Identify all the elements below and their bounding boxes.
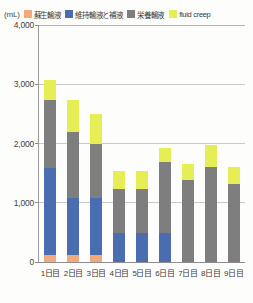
y-axis-unit-label: (mL) xyxy=(4,10,20,19)
stacked-bar[interactable] xyxy=(228,167,240,262)
bar-segment xyxy=(90,144,102,199)
bar-segment xyxy=(90,198,102,255)
y-axis-tick-label: 3,000 xyxy=(14,79,34,89)
x-axis-tick-label: 9日目 xyxy=(224,267,243,278)
legend-item-3: fluid creep xyxy=(169,10,210,19)
legend-item-0: 蘇生輸液 xyxy=(24,9,61,20)
bar-group-2[interactable]: 2日目 xyxy=(62,25,85,262)
bar-group-5[interactable]: 5日目 xyxy=(131,25,154,262)
bar-segment xyxy=(136,171,148,189)
x-axis-tick-label: 5日目 xyxy=(132,267,151,278)
bar-segment xyxy=(67,132,79,198)
x-axis-tick-label: 8日目 xyxy=(201,267,220,278)
bar-segment xyxy=(182,180,194,262)
bar-segment xyxy=(44,100,56,168)
bar-segment xyxy=(67,100,79,131)
stacked-bar-chart: (mL) 蘇生輸液 維持輸液と補液 栄養輸液 fluid creep 01,00… xyxy=(0,0,253,303)
bar-segment xyxy=(228,184,240,262)
bar-segment xyxy=(159,162,171,233)
stacked-bar[interactable] xyxy=(205,145,217,262)
stacked-bar[interactable] xyxy=(136,171,148,262)
x-axis-tick-label: 4日目 xyxy=(109,267,128,278)
bar-group-8[interactable]: 8日目 xyxy=(199,25,222,262)
stacked-bar[interactable] xyxy=(113,171,125,262)
bar-segment xyxy=(136,233,148,262)
legend-swatch-icon-1 xyxy=(65,10,73,18)
bar-group-9[interactable]: 9日目 xyxy=(222,25,245,262)
bar-segment xyxy=(205,167,217,262)
bar-segment xyxy=(67,198,79,255)
x-axis-tick-label: 2日目 xyxy=(64,267,83,278)
y-axis-tick-label: 0 xyxy=(29,257,34,267)
bar-segment xyxy=(44,80,56,101)
x-axis-tick-label: 7日目 xyxy=(178,267,197,278)
bar-segment xyxy=(113,189,125,233)
stacked-bar[interactable] xyxy=(90,114,102,262)
bar-segment xyxy=(90,114,102,143)
bar-group-3[interactable]: 3日目 xyxy=(85,25,108,262)
plot-area: 01,0002,0003,0004,000 1日目2日目3日目4日目5日目6日目… xyxy=(38,25,245,262)
chart-legend: (mL) 蘇生輸液 維持輸液と補液 栄養輸液 fluid creep xyxy=(4,7,253,21)
y-axis-tick-label: 4,000 xyxy=(14,20,34,30)
bar-segment xyxy=(44,168,56,255)
stacked-bar[interactable] xyxy=(182,164,194,262)
bar-segment xyxy=(44,255,56,262)
bar-group-4[interactable]: 4日目 xyxy=(108,25,131,262)
legend-label-1: 維持輸液と補液 xyxy=(75,9,122,20)
y-axis-tick-label: 1,000 xyxy=(14,198,34,208)
bar-segment xyxy=(136,189,148,233)
stacked-bar[interactable] xyxy=(44,80,56,262)
bar-segment xyxy=(159,233,171,262)
legend-label-3: fluid creep xyxy=(179,10,210,19)
legend-label-0: 蘇生輸液 xyxy=(34,9,61,20)
x-axis-tick-label: 3日目 xyxy=(87,267,106,278)
legend-item-1: 維持輸液と補液 xyxy=(65,9,122,20)
bar-segment xyxy=(113,233,125,262)
bar-group-7[interactable]: 7日目 xyxy=(176,25,199,262)
legend-swatch-icon-3 xyxy=(169,10,177,18)
bar-segment xyxy=(67,255,79,262)
legend-swatch-icon-0 xyxy=(24,10,32,18)
bar-segment xyxy=(90,255,102,262)
legend-label-2: 栄養輸液 xyxy=(137,9,164,20)
bar-segment xyxy=(182,164,194,180)
x-axis-tick-label: 1日目 xyxy=(41,267,60,278)
stacked-bar[interactable] xyxy=(159,148,171,262)
bars-container: 1日目2日目3日目4日目5日目6日目7日目8日目9日目 xyxy=(39,25,245,262)
x-axis-tick-label: 6日目 xyxy=(155,267,174,278)
bar-segment xyxy=(205,145,217,167)
legend-item-2: 栄養輸液 xyxy=(127,9,164,20)
bar-segment xyxy=(228,167,240,185)
bar-group-1[interactable]: 1日目 xyxy=(39,25,62,262)
y-axis-tick-label: 2,000 xyxy=(14,139,34,149)
bar-segment xyxy=(113,171,125,189)
bar-segment xyxy=(159,148,171,163)
stacked-bar[interactable] xyxy=(67,100,79,262)
legend-swatch-icon-2 xyxy=(127,10,135,18)
bar-group-6[interactable]: 6日目 xyxy=(153,25,176,262)
